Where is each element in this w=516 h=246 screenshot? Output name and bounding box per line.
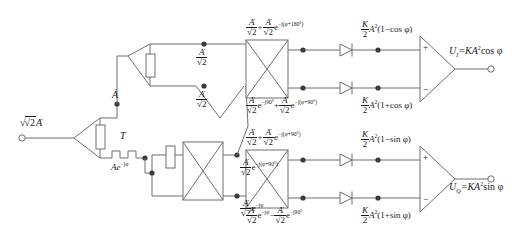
top-row1-detect-dot bbox=[375, 47, 380, 52]
output-bottom-label: UQ=KA2sin φ bbox=[449, 182, 503, 192]
bottom-row1-tap-dot bbox=[300, 157, 305, 162]
diode-row1 bbox=[340, 44, 352, 56]
detected-row4-label: K2A2(1+sin φ) bbox=[361, 206, 411, 225]
top-amp-plus-sign: + bbox=[423, 43, 428, 52]
top-row2-tap-dot bbox=[300, 85, 305, 90]
delayed-signal-label: Ae−jφ bbox=[111, 163, 128, 172]
bottom-amp-minus-sign: − bbox=[423, 195, 428, 204]
top-output-terminal-icon bbox=[488, 66, 494, 72]
diode-row3 bbox=[340, 154, 352, 166]
detected-row1-label: K2A2(1−cos φ) bbox=[361, 20, 412, 39]
diode-row4 bbox=[340, 192, 352, 204]
upper-splitter-resistor bbox=[146, 54, 155, 77]
lower-left-hybrid-in-dot bbox=[149, 170, 154, 175]
upper-top-node-dot bbox=[201, 41, 206, 46]
splitter-resistor bbox=[96, 125, 105, 149]
bottom-row2-tap-dot bbox=[300, 195, 305, 200]
delay-label: T bbox=[120, 131, 126, 141]
lower-left-out-bottom-dot bbox=[234, 193, 239, 198]
circuit-diagram: √√2Ȧ Ȧ T Ae−jφ Ȧ√2 Ȧ√2 Ȧ√2e−j(φ+90°… bbox=[0, 0, 516, 246]
diode-row2 bbox=[340, 82, 352, 94]
top-hybrid-sum-top-label: Ȧ√2+Ȧ√2e−j(φ+180°) bbox=[246, 18, 303, 37]
detected-row3-label: K2A2(1−sin φ) bbox=[361, 130, 411, 149]
delay-line-symbol bbox=[112, 151, 145, 158]
upper-bottom-node-dot bbox=[201, 83, 206, 88]
top-hybrid-sum-bottom-label: Ȧ√2e−j90°+Ȧ√2e−j(φ+90°) bbox=[246, 96, 317, 115]
input-terminal-icon bbox=[19, 135, 25, 141]
bottom-amp-plus-sign: + bbox=[423, 153, 428, 162]
detected-row2-label: K2A2(1+cos φ) bbox=[361, 96, 412, 115]
splitter-out-bottom-label: Ȧ√2 bbox=[196, 90, 207, 109]
input-signal-var: A bbox=[36, 117, 42, 128]
splitter-out-top-label: Ȧ√2 bbox=[196, 48, 207, 67]
top-row1-tap-dot bbox=[300, 47, 305, 52]
top-row2-detect-dot bbox=[375, 85, 380, 90]
input-signal-label: √√2Ȧ bbox=[20, 118, 42, 128]
input-sqrt-glyph: √√2 bbox=[20, 118, 36, 128]
top-amp-minus-sign: − bbox=[423, 85, 428, 94]
lower-left-hybrid-out-top-label: Ȧ√2e−j(φ+90°) bbox=[240, 158, 278, 177]
node-a-label: Ȧ bbox=[112, 90, 118, 100]
bottom-row3-detect-dot bbox=[375, 157, 380, 162]
bottom-row4-detect-dot bbox=[375, 195, 380, 200]
bottom-hybrid-sum-bottom-label: Ȧ√2e−jφ−Ȧ√2e−j90° bbox=[246, 206, 302, 225]
bottom-hybrid-sum-top-label: Ȧ√2+Ȧ√2e−j(φ+90°) bbox=[246, 128, 301, 147]
lower-left-hybrid-resistor bbox=[166, 146, 175, 168]
output-top-label: UI=KA2cos φ bbox=[449, 46, 503, 56]
